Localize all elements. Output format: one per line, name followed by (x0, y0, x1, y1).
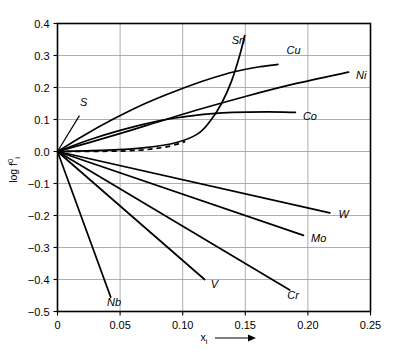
series-label-cu: Cu (287, 44, 301, 56)
series-label-co: Co (303, 110, 317, 122)
x-tick-label: 0.10 (172, 319, 193, 331)
series-label-nb: Nb (107, 296, 121, 308)
y-tick-label: −0.5 (28, 306, 50, 318)
y-tick-label: −0.1 (28, 178, 50, 190)
y-tick-label: −0.3 (28, 242, 50, 254)
chart-figure: 0.40.30.20.10.0−0.1−0.2−0.3−0.4−0.500.05… (0, 0, 396, 357)
series-label-ni: Ni (356, 69, 367, 81)
y-tick-label: 0.3 (34, 50, 49, 62)
y-tick-label: −0.2 (28, 210, 50, 222)
series-label-mo: Mo (311, 232, 326, 244)
x-tick-label: 0 (54, 319, 60, 331)
y-tick-label: 0.1 (34, 114, 49, 126)
y-tick-label: 0.2 (34, 82, 49, 94)
series-label-sn: Sn (232, 34, 245, 46)
series-label-s: S (80, 96, 88, 108)
activity-coefficient-chart: 0.40.30.20.10.0−0.1−0.2−0.3−0.4−0.500.05… (0, 0, 396, 357)
chart-background (0, 0, 396, 357)
y-tick-label: 0.0 (34, 146, 49, 158)
x-tick-label: 0.25 (360, 319, 381, 331)
series-label-w: W (339, 208, 351, 220)
y-tick-label: 0.4 (34, 18, 49, 30)
y-tick-label: −0.4 (28, 274, 50, 286)
x-tick-label: 0.15 (235, 319, 256, 331)
series-label-cr: Cr (287, 289, 300, 301)
x-tick-label: 0.05 (109, 319, 130, 331)
x-tick-label: 0.20 (297, 319, 318, 331)
